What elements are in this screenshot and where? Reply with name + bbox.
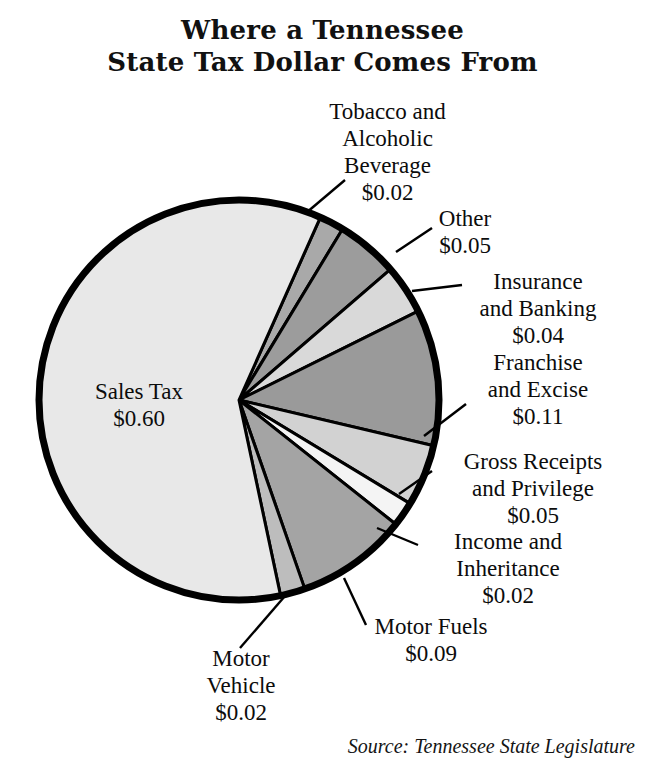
slice-label-motor-vehicle: Motor Vehicle $0.02 bbox=[166, 645, 316, 726]
leader-line-motor-vehicle bbox=[240, 596, 285, 648]
slice-label-income: Income and Inheritance $0.02 bbox=[414, 528, 602, 609]
tax-dollar-pie-figure: Where a Tennessee State Tax Dollar Comes… bbox=[0, 0, 645, 780]
slice-label-insurance: Insurance and Banking $0.04 bbox=[440, 268, 636, 349]
slice-label-other: Other $0.05 bbox=[405, 205, 525, 259]
slice-label-motor-fuels: Motor Fuels $0.09 bbox=[340, 613, 522, 667]
slice-label-franchise: Franchise and Excise $0.11 bbox=[442, 349, 634, 430]
source-credit: Source: Tennessee State Legislature bbox=[348, 735, 635, 758]
slice-label-gross-receipts: Gross Receipts and Privilege $0.05 bbox=[425, 448, 641, 529]
slice-label-tobacco: Tobacco and Alcoholic Beverage $0.02 bbox=[300, 98, 475, 206]
slice-label-sales-tax: Sales Tax $0.60 bbox=[64, 378, 214, 432]
